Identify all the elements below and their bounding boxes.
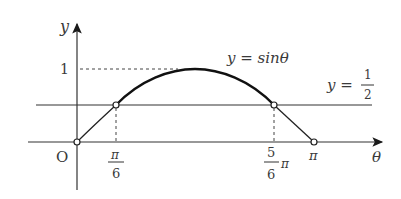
curve-label: y = sinθ [226, 49, 289, 67]
point-pi [311, 139, 317, 145]
point-pi6 [113, 102, 119, 108]
y-axis-label: y [59, 17, 70, 36]
sine-curve-thin-left [77, 105, 116, 142]
line-label-prefix: y = [326, 76, 353, 94]
line-label-den: 2 [364, 88, 372, 102]
point-5pi6 [271, 102, 277, 108]
line-label-num: 1 [364, 68, 372, 82]
sine-curve-thin-right [274, 105, 314, 142]
sine-curve-thick [116, 69, 274, 105]
tick-pi6-num: π [110, 148, 120, 162]
tick-pi6-den: 6 [112, 166, 120, 181]
x-axis-label: θ [372, 148, 381, 166]
sine-graph: y 1 O θ y = sinθ y = 1 2 π 6 5 6 π π [0, 0, 401, 199]
origin-label: O [56, 148, 68, 166]
tick-5pi6-den: 6 [267, 167, 275, 182]
tick-5pi6-num: 5 [267, 145, 275, 160]
tick-5pi6-pi: π [280, 157, 290, 171]
point-origin [74, 139, 80, 145]
tick-pi: π [308, 148, 318, 163]
y-tick-1: 1 [60, 61, 69, 77]
